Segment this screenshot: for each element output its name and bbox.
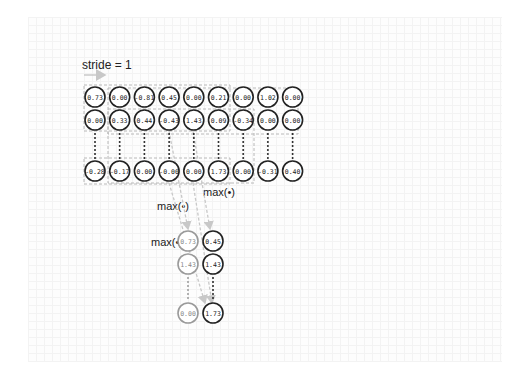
input-cell: -0.17 [110,161,130,181]
svg-text:0.00: 0.00 [87,117,103,125]
input-cell: 0.09 [209,110,229,130]
maxpool-diagram: 0.730.00-0.810.450.000.210.001.020.000.0… [0,0,521,390]
svg-text:0.45: 0.45 [161,94,177,102]
output-cell: 0.73 [178,231,198,251]
svg-text:0.00: 0.00 [285,94,301,102]
svg-text:0.00: 0.00 [235,94,251,102]
svg-text:1.43: 1.43 [180,261,196,269]
svg-text:-0.00: -0.00 [159,168,179,176]
input-cell: 0.21 [209,87,229,107]
svg-text:0.00: 0.00 [137,168,153,176]
output-cell: 1.43 [203,254,223,274]
input-cell: 0.00 [233,161,253,181]
svg-text:0.44: 0.44 [137,117,153,125]
svg-text:0.45: 0.45 [205,238,221,246]
input-cell: 0.00 [184,161,204,181]
svg-text:-0.31: -0.31 [258,168,278,176]
input-cell: -0.43 [159,110,179,130]
input-cell: 0.44 [134,110,154,130]
input-cell: 0.45 [159,87,179,107]
svg-text:-0.34: -0.34 [233,117,253,125]
input-cell: 1.43 [184,110,204,130]
output-cell: 1.73 [203,303,223,323]
input-cell: 1.02 [258,87,278,107]
svg-text:0.33: 0.33 [112,117,128,125]
svg-text:0.00: 0.00 [180,310,196,318]
input-cell: -0.81 [134,87,154,107]
input-cell: 0.00 [233,87,253,107]
svg-text:1.43: 1.43 [205,261,221,269]
input-cell: 0.33 [110,110,130,130]
svg-text:1.73: 1.73 [211,168,227,176]
output-cell: 0.00 [178,303,198,323]
output-cell: 1.43 [178,254,198,274]
svg-text:-0.43: -0.43 [159,117,179,125]
output-cell: 0.45 [203,231,223,251]
svg-text:0.00: 0.00 [112,94,128,102]
svg-text:0.00: 0.00 [285,117,301,125]
input-cell: -0.31 [258,161,278,181]
input-cell: -0.34 [233,110,253,130]
svg-text:-0.81: -0.81 [135,94,155,102]
svg-text:1.43: 1.43 [186,117,202,125]
svg-text:0.09: 0.09 [211,117,227,125]
svg-text:1.02: 1.02 [260,94,276,102]
svg-text:-0.17: -0.17 [110,168,130,176]
input-cell: -0.28 [85,161,105,181]
svg-text:0.40: 0.40 [285,168,301,176]
svg-text:0.00: 0.00 [260,117,276,125]
input-cell: 0.40 [283,161,303,181]
input-cell: 0.00 [283,87,303,107]
input-cell: 0.00 [283,110,303,130]
svg-text:0.73: 0.73 [87,94,103,102]
svg-text:1.73: 1.73 [205,310,221,318]
input-cell: 0.00 [184,87,204,107]
svg-text:0.00: 0.00 [235,168,251,176]
svg-text:0.00: 0.00 [186,168,202,176]
input-cell: 0.00 [85,110,105,130]
input-cell: -0.00 [159,161,179,181]
input-cell: 0.73 [85,87,105,107]
svg-text:0.73: 0.73 [180,238,196,246]
input-cell: 0.00 [134,161,154,181]
input-cell: 0.00 [258,110,278,130]
svg-text:-0.28: -0.28 [85,168,105,176]
input-cell: 0.00 [110,87,130,107]
input-cell: 1.73 [209,161,229,181]
svg-text:0.00: 0.00 [186,94,202,102]
svg-text:0.21: 0.21 [211,94,227,102]
